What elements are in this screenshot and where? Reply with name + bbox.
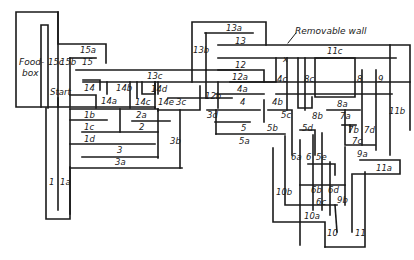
cell-9b: 9b xyxy=(337,196,348,205)
cell-5a: 5a xyxy=(239,137,250,146)
cell-14d: 14d xyxy=(151,85,167,94)
cell-15a: 15a xyxy=(80,46,96,55)
cell-4a: 4a xyxy=(237,85,248,94)
cell-8a: 8a xyxy=(337,100,348,109)
cell-6c: 6c xyxy=(316,198,326,207)
cell-7a: 7a xyxy=(340,112,351,121)
cell-13c: 13c xyxy=(147,72,163,81)
cell-8b: 8b xyxy=(312,112,323,121)
cell-3b: 3b xyxy=(170,137,181,146)
cell-6d: 6d xyxy=(328,186,339,195)
foodbox-label-line1: Food- xyxy=(19,58,44,67)
cell-8c: 8c xyxy=(304,75,314,84)
cell-5b: 5b xyxy=(267,124,278,133)
foodbox-label-line2: box xyxy=(22,69,39,78)
cell-13: 13 xyxy=(235,37,246,46)
cell-11: 11 xyxy=(355,229,366,238)
cell-11b: 11b xyxy=(389,107,405,116)
cell-4: 4 xyxy=(240,98,245,107)
cell-7b: 7b xyxy=(348,126,359,135)
cell-14b: 14b xyxy=(116,84,132,93)
cell-8: 8 xyxy=(357,75,362,84)
cell-3a: 3a xyxy=(115,158,126,167)
cell-5d: 5d xyxy=(302,124,313,133)
cell-6a: 6a xyxy=(291,153,302,162)
cell-12a: 12a xyxy=(232,73,248,82)
cell-3: 3 xyxy=(117,146,122,155)
cell-2a: 2a xyxy=(136,111,147,120)
cell-10b: 10b xyxy=(276,188,292,197)
cell-4b: 4b xyxy=(272,98,283,107)
cell-5: 5 xyxy=(241,124,246,133)
cell-1a: 1a xyxy=(60,178,71,187)
cell-12: 12 xyxy=(235,61,246,70)
cell-9: 9 xyxy=(378,75,383,84)
removable-wall-label: Removable wall xyxy=(295,27,366,36)
cell-13b: 13b xyxy=(193,46,209,55)
cell-14e: 14e xyxy=(158,98,174,107)
cell-7c: 7c xyxy=(352,137,362,146)
cell-1: 1 xyxy=(49,178,54,187)
cell-15b: 15b xyxy=(60,58,76,67)
cell-3c: 3c xyxy=(176,98,186,107)
cell-5e: 5e xyxy=(316,153,327,162)
cell-2: 2 xyxy=(139,123,144,132)
cell-11c: 11c xyxy=(327,47,343,56)
cell-12b: 12b xyxy=(205,92,221,101)
cell-6: 6 xyxy=(306,153,311,162)
removable-wall-marker: x xyxy=(283,55,288,64)
cell-14a: 14a xyxy=(101,97,117,106)
cell-1b: 1b xyxy=(84,111,95,120)
cell-14: 14 xyxy=(84,84,95,93)
cell-3d: 3d xyxy=(207,111,218,120)
cell-1c: 1c xyxy=(84,123,94,132)
cell-4c: 4c xyxy=(277,75,287,84)
cell-9a: 9a xyxy=(357,150,368,159)
start-label: Start xyxy=(50,88,71,97)
cell-15: 15 xyxy=(82,58,93,67)
cell-6b: 6b xyxy=(311,186,322,195)
cell-10a: 10a xyxy=(304,212,320,221)
cell-5c: 5c xyxy=(281,111,291,120)
cell-1d: 1d xyxy=(84,135,95,144)
cell-14c: 14c xyxy=(135,98,151,107)
cell-10: 10 xyxy=(327,229,338,238)
cell-13a: 13a xyxy=(226,24,242,33)
cell-7d: 7d xyxy=(364,126,375,135)
cell-11a: 11a xyxy=(376,164,392,173)
